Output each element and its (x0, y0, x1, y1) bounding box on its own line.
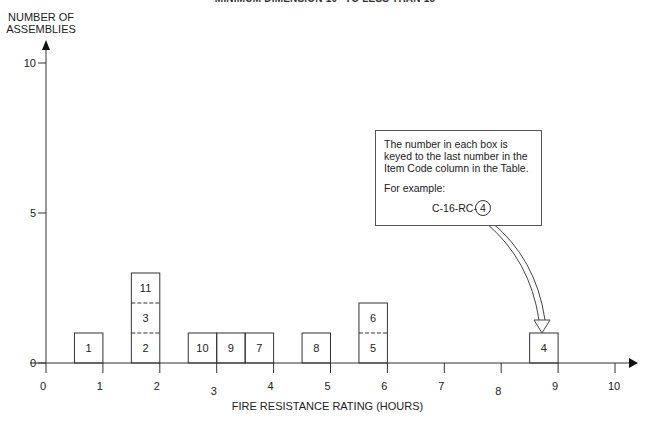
y-tick-label: 0 (30, 357, 36, 369)
box-item-code: 9 (228, 342, 234, 354)
box-item-code: 2 (143, 342, 149, 354)
annotation-example-code: C-16-RC-4 (384, 200, 535, 216)
x-tick-label: 10 (608, 380, 620, 392)
box-item-code: 10 (196, 342, 208, 354)
x-tick-label: 2 (154, 380, 160, 392)
callout-arrowhead-icon (534, 320, 550, 333)
annotation-text: The number in each box is keyed to the l… (384, 138, 535, 174)
x-axis-arrow-icon (629, 358, 638, 368)
box-item-code: 11 (140, 282, 151, 294)
box-item-code: 3 (143, 312, 149, 324)
example-code-circled-number: 4 (475, 200, 491, 216)
histogram-chart: 05100123456789101231110978564 (0, 0, 655, 427)
x-tick-label: 0 (40, 380, 46, 392)
x-tick-label: 8 (495, 385, 501, 397)
x-tick-label: 1 (97, 380, 103, 392)
x-tick-label: 6 (381, 380, 387, 392)
callout-arrow-line-right (490, 221, 545, 320)
example-code-prefix: C-16-RC- (432, 202, 477, 214)
box-item-code: 6 (370, 312, 376, 324)
x-tick-label: 4 (268, 380, 274, 392)
x-axis-label: FIRE RESISTANCE RATING (HOURS) (0, 400, 655, 412)
box-item-code: 5 (370, 342, 376, 354)
x-tick-label: 3 (211, 385, 217, 397)
box-item-code: 1 (86, 342, 92, 354)
y-axis-arrow-icon (42, 40, 50, 50)
x-tick-label: 7 (438, 380, 444, 392)
box-item-code: 7 (256, 342, 262, 354)
annotation-example-label: For example: (384, 182, 535, 194)
x-tick-label: 5 (324, 380, 330, 392)
box-item-code: 4 (541, 342, 547, 354)
y-tick-label: 5 (30, 207, 36, 219)
annotation-box: The number in each box is keyed to the l… (375, 130, 542, 226)
x-tick-label: 9 (552, 380, 558, 392)
y-tick-label: 10 (24, 57, 36, 69)
box-item-code: 8 (313, 342, 319, 354)
